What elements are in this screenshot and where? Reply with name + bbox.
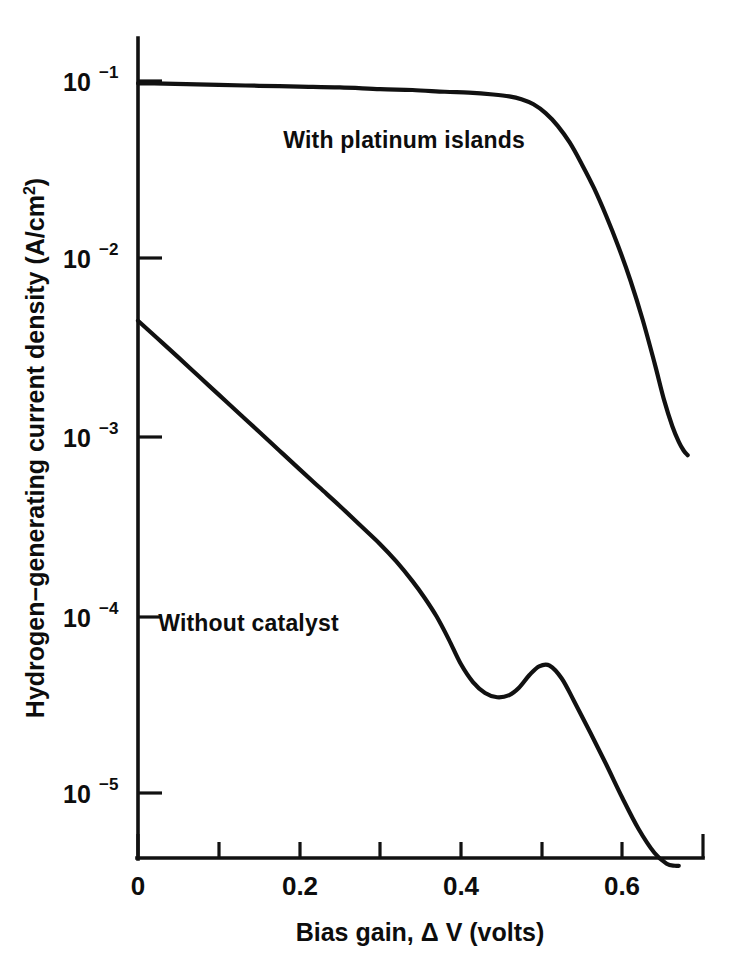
y-axis-title-tail: ) (21, 178, 49, 186)
y-tick-label-exponent-5: −5 (99, 775, 118, 794)
y-tick-label-mantissa-4: 10 (63, 604, 91, 632)
chart-canvas: 10 −1 10 −2 10 −3 10 −4 10 −5 0 0.2 0.4 … (0, 0, 749, 960)
y-axis-title-main: Hydrogen−generating current density (A/c… (21, 195, 49, 718)
y-tick-marks (138, 81, 162, 793)
y-axis-title: Hydrogen−generating current density (A/c… (21, 178, 49, 718)
y-tick-label-mantissa-1: 10 (63, 68, 91, 96)
annotation-with-platinum-islands: With platinum islands (283, 127, 525, 153)
annotation-without-catalyst: Without catalyst (158, 610, 339, 636)
figure-container: 10 −1 10 −2 10 −3 10 −4 10 −5 0 0.2 0.4 … (0, 0, 749, 960)
y-tick-label-exponent-2: −2 (99, 240, 118, 259)
curve-without-catalyst (138, 321, 679, 866)
data-curves (138, 83, 688, 866)
x-tick-label-0-6: 0.6 (604, 871, 640, 901)
x-axis-title: Bias gain, Δ V (volts) (296, 918, 545, 946)
y-axis-title-superscript: 2 (21, 186, 38, 195)
x-tick-label-0-4: 0.4 (443, 871, 480, 901)
y-tick-label-exponent-4: −4 (99, 599, 119, 618)
y-tick-label-mantissa-2: 10 (63, 245, 91, 273)
y-tick-label-mantissa-3: 10 (63, 424, 91, 452)
y-tick-label-exponent-3: −3 (99, 419, 118, 438)
x-tick-label-0: 0 (131, 871, 145, 901)
y-tick-label-exponent-1: −1 (99, 63, 118, 82)
x-tick-marks (138, 834, 703, 858)
x-tick-label-0-2: 0.2 (282, 871, 318, 901)
y-axis-title-group: Hydrogen−generating current density (A/c… (21, 178, 49, 718)
y-tick-label-mantissa-5: 10 (63, 780, 91, 808)
axes-group (137, 38, 703, 859)
curve-annotations: With platinum islands Without catalyst (158, 127, 525, 636)
y-tick-labels: 10 −1 10 −2 10 −3 10 −4 10 −5 (63, 63, 119, 808)
x-tick-labels: 0 0.2 0.4 0.6 (131, 871, 640, 901)
